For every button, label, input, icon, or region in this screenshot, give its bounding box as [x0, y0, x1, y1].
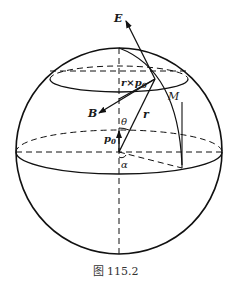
label-b: B — [87, 107, 97, 120]
figure-caption: 图 115.2 — [0, 262, 231, 278]
label-rxp0: r×p0 — [121, 77, 147, 90]
label-theta: θ — [121, 116, 127, 127]
label-e: E — [113, 12, 123, 25]
meridian-arc — [119, 48, 182, 165]
label-m: M — [167, 90, 180, 103]
projection-line — [119, 152, 182, 168]
sphere-diagram: E B M r r×p0 p0 θ α — [0, 0, 231, 298]
label-alpha: α — [121, 159, 128, 170]
label-p0: p0 — [104, 133, 116, 146]
label-r: r — [143, 108, 150, 121]
e-vector — [126, 21, 155, 79]
alpha-arc — [119, 155, 126, 158]
